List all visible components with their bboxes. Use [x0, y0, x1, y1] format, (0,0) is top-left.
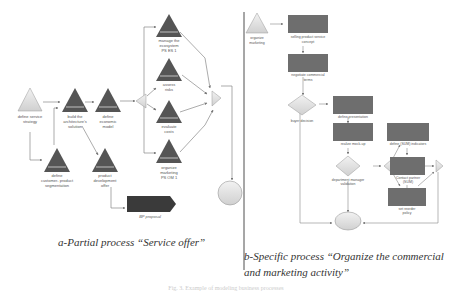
svg-text:strategy: strategy	[23, 119, 37, 124]
svg-text:risks: risks	[165, 87, 173, 92]
node-assess-risks[interactable]: assess risks	[156, 58, 182, 92]
node-contact-partner[interactable]: Contact partner (SUM)	[390, 157, 425, 184]
svg-text:buyer decision: buyer decision	[291, 119, 314, 123]
svg-text:model: model	[103, 124, 114, 129]
svg-text:validation: validation	[341, 182, 356, 186]
node-organize-marketing-a[interactable]: organize marketing PS OM 1	[156, 139, 182, 180]
svg-text:define (SUM) indicators: define (SUM) indicators	[390, 142, 427, 146]
svg-text:negotiate commercial: negotiate commercial	[291, 73, 324, 77]
svg-text:marketing: marketing	[249, 41, 264, 45]
node-define-service-strategy[interactable]: define service strategy	[18, 88, 43, 124]
node-bp-proposal[interactable]: BP proposal	[127, 196, 176, 219]
node-define-presentation[interactable]: define presentation	[333, 96, 373, 119]
node-selling-product[interactable]: selling product service concept	[288, 15, 328, 44]
svg-text:organize: organize	[250, 36, 263, 40]
svg-text:define presentation: define presentation	[338, 115, 368, 119]
node-define-segmentation[interactable]: define customer- product segmentation	[41, 148, 74, 188]
caption-b-line1: b-Specific process “Organize the commerc…	[244, 250, 444, 262]
svg-text:offer: offer	[101, 183, 110, 188]
svg-text:realize mock-up: realize mock-up	[341, 142, 366, 146]
split-gateway-b	[384, 160, 391, 172]
node-evaluate-costs[interactable]: evaluate costs	[156, 100, 182, 134]
svg-text:BP proposal: BP proposal	[139, 214, 161, 219]
panel-a: define service strategy build the archit…	[18, 14, 242, 248]
svg-text:costs: costs	[164, 129, 173, 134]
svg-text:terms: terms	[304, 78, 313, 82]
svg-text:solution: solution	[68, 124, 82, 129]
node-define-economic-model[interactable]: define economic model	[95, 88, 121, 129]
diagram-canvas: define service strategy build the archit…	[0, 0, 452, 291]
node-realize-mockup[interactable]: realize mock-up	[333, 123, 373, 146]
node-buyer-decision[interactable]: buyer decision	[288, 95, 316, 123]
svg-text:segmentation: segmentation	[45, 183, 69, 188]
merge-gateway	[212, 91, 221, 106]
node-manage-ecosystem[interactable]: manage the ecosystem PS ES 1	[156, 14, 182, 53]
split-gateway	[136, 94, 146, 108]
node-dept-manager-validation[interactable]: department manager validation	[332, 156, 365, 186]
figure-caption: Fig. 3. Example of modeling business pro…	[168, 285, 284, 291]
panel-b: organize marketing selling product servi…	[244, 13, 444, 278]
end-event-a	[218, 181, 242, 205]
svg-text:PS OM 1: PS OM 1	[161, 175, 178, 180]
svg-text:selling product service: selling product service	[291, 35, 326, 39]
svg-text:policy: policy	[403, 211, 412, 215]
end-event-b	[335, 212, 361, 230]
svg-text:concept: concept	[302, 40, 314, 44]
node-organize-marketing-b[interactable]: organize marketing	[246, 13, 268, 45]
node-build-architecture[interactable]: build the architecture's solution	[62, 88, 88, 129]
svg-text:(SUM): (SUM)	[403, 180, 413, 184]
node-set-reorder-policy[interactable]: set reorder policy	[388, 188, 426, 215]
svg-text:PS ES 1: PS ES 1	[161, 48, 177, 53]
caption-a: a-Partial process “Service offer”	[58, 236, 205, 248]
node-negotiate-terms[interactable]: negotiate commercial terms	[288, 54, 328, 82]
merge-gateway-b	[436, 160, 443, 172]
node-define-sum-indicators[interactable]: define (SUM) indicators	[387, 123, 429, 146]
node-product-development[interactable]: product development offer	[92, 148, 118, 188]
caption-b-line2: and marketing activity”	[244, 266, 349, 278]
